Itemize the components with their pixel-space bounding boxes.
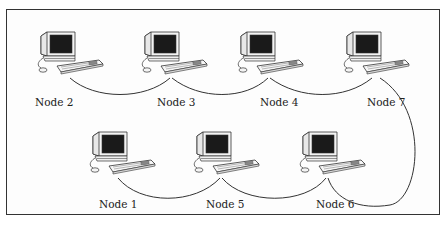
cable-node6-node5 [222, 178, 326, 198]
computer-icon [33, 30, 107, 80]
computer-node3 [137, 30, 211, 80]
computer-node1 [85, 130, 159, 180]
computer-node5 [189, 130, 263, 180]
cable-node5-node1 [118, 178, 220, 198]
computer-icon [295, 130, 369, 180]
computer-icon [137, 30, 211, 80]
cable-node3-node4 [172, 78, 268, 95]
node-label: Node 7 [367, 96, 405, 108]
node-label: Node 2 [35, 96, 73, 108]
computer-node7 [339, 30, 413, 80]
node-label: Node 6 [316, 198, 354, 210]
computer-icon [85, 130, 159, 180]
node-label: Node 3 [157, 96, 195, 108]
cable-node4-node7 [270, 78, 372, 95]
computer-icon [189, 130, 263, 180]
computer-node6 [295, 130, 369, 180]
computer-icon [339, 30, 413, 80]
node-label: Node 5 [206, 198, 244, 210]
node-label: Node 4 [260, 96, 298, 108]
node-label: Node 1 [99, 198, 137, 210]
computer-node4 [233, 30, 307, 80]
computer-icon [233, 30, 307, 80]
computer-node2 [33, 30, 107, 80]
cable-node2-node3 [70, 78, 170, 95]
